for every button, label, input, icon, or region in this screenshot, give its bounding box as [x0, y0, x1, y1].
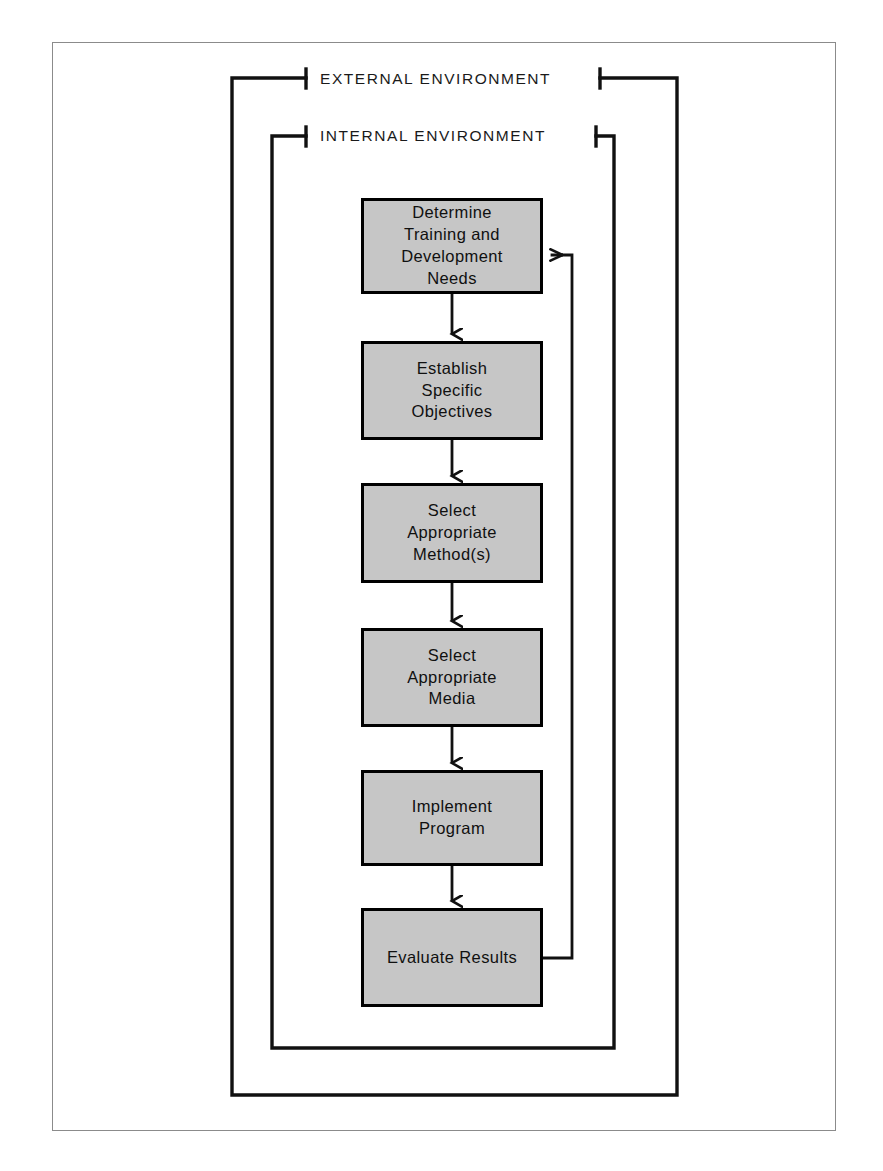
process-node-label: Evaluate Results [381, 947, 523, 969]
process-node-implement-program[interactable]: Implement Program [361, 770, 543, 866]
process-node-label: Select Appropriate Media [401, 645, 503, 710]
process-node-evaluate-results[interactable]: Evaluate Results [361, 908, 543, 1007]
process-node-label: Establish Specific Objectives [405, 358, 498, 423]
process-node-select-methods[interactable]: Select Appropriate Method(s) [361, 483, 543, 583]
process-node-select-media[interactable]: Select Appropriate Media [361, 628, 543, 727]
diagram-page: EXTERNAL ENVIRONMENT INTERNAL ENVIRONMEN… [0, 0, 883, 1171]
process-node-label: Select Appropriate Method(s) [401, 500, 503, 565]
internal-environment-label: INTERNAL ENVIRONMENT [320, 127, 546, 145]
external-environment-label: EXTERNAL ENVIRONMENT [320, 70, 551, 88]
process-node-label: Implement Program [406, 796, 499, 840]
process-node-label: Determine Training and Development Needs [395, 202, 509, 289]
process-node-determine-needs[interactable]: Determine Training and Development Needs [361, 198, 543, 294]
process-node-establish-objectives[interactable]: Establish Specific Objectives [361, 341, 543, 440]
